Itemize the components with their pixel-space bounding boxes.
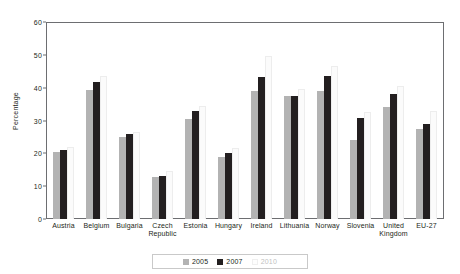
- bar-2010[interactable]: [298, 89, 305, 219]
- x-axis-tick-label: Slovenia: [344, 222, 377, 248]
- y-axis-tick-label: 30: [34, 117, 42, 124]
- legend-swatch-2005-icon: [183, 259, 189, 265]
- bar-group: [86, 22, 107, 219]
- bar-2007[interactable]: [324, 76, 331, 219]
- bar-2005[interactable]: [284, 96, 291, 219]
- x-axis-tick-label: EU-27: [410, 222, 443, 248]
- bar-2007[interactable]: [423, 124, 430, 219]
- bar-2005[interactable]: [185, 119, 192, 219]
- clipped-header-artifact: [0, 0, 460, 12]
- legend-item-2005[interactable]: 2005: [183, 258, 208, 265]
- bar-2010[interactable]: [166, 171, 173, 219]
- bar-2005[interactable]: [86, 90, 93, 219]
- bar-2010[interactable]: [67, 147, 74, 219]
- y-axis-tick-label: 0: [38, 216, 42, 223]
- bar-2010[interactable]: [430, 111, 437, 219]
- y-axis: Percentage 0102030405060: [0, 0, 46, 222]
- legend-item-2007[interactable]: 2007: [217, 258, 242, 265]
- chart-figure: Percentage 0102030405060 AustriaBelgiumB…: [0, 0, 460, 274]
- bar-group: [119, 22, 140, 219]
- x-axis-tick-label: Belgium: [80, 222, 113, 248]
- bar-2010[interactable]: [265, 56, 272, 220]
- bar-2007[interactable]: [357, 118, 364, 219]
- legend-swatch-2007-icon: [217, 259, 223, 265]
- bar-2010[interactable]: [331, 66, 338, 219]
- x-axis-tick-label-line2: Kingdom: [379, 230, 407, 237]
- bar-2007[interactable]: [60, 150, 67, 219]
- legend-swatch-2010-icon: [252, 259, 258, 265]
- y-axis-tick-label: 50: [34, 51, 42, 58]
- bar-group: [152, 22, 173, 219]
- bar-group: [416, 22, 437, 219]
- bar-2010[interactable]: [397, 86, 404, 219]
- y-axis-tick-label: 60: [34, 19, 42, 26]
- legend-label-2005: 2005: [192, 258, 208, 265]
- bar-group: [53, 22, 74, 219]
- bar-group: [284, 22, 305, 219]
- bar-2005[interactable]: [152, 177, 159, 219]
- bar-2010[interactable]: [364, 112, 371, 219]
- bar-2010[interactable]: [133, 132, 140, 219]
- bar-group: [350, 22, 371, 219]
- chart-legend: 2005 2007 2010: [152, 254, 308, 269]
- x-axis-tick-label: UnitedKingdom: [377, 222, 410, 248]
- y-axis-tick-label: 40: [34, 84, 42, 91]
- bar-2005[interactable]: [416, 129, 423, 219]
- bars-layer: [47, 22, 443, 219]
- x-axis-tick-label: Estonia: [179, 222, 212, 248]
- x-axis-tick-label: Bulgaria: [113, 222, 146, 248]
- bar-2007[interactable]: [390, 94, 397, 219]
- bar-2005[interactable]: [53, 152, 60, 219]
- y-axis-tick-label: 10: [34, 183, 42, 190]
- y-axis-title: Percentage: [12, 66, 19, 156]
- x-axis-labels: AustriaBelgiumBulgariaCzechRepublicEston…: [47, 222, 443, 248]
- bar-2005[interactable]: [350, 140, 357, 219]
- legend-item-2010[interactable]: 2010: [252, 258, 277, 265]
- x-axis-tick-label: CzechRepublic: [146, 222, 179, 248]
- x-axis-tick-label: Austria: [47, 222, 80, 248]
- x-axis-tick-label-line2: Republic: [148, 230, 176, 237]
- x-axis-tick-label: Lithuania: [278, 222, 311, 248]
- bar-group: [185, 22, 206, 219]
- x-axis-tick-label: Hungary: [212, 222, 245, 248]
- x-axis-tick-label: Ireland: [245, 222, 278, 248]
- bar-2007[interactable]: [126, 134, 133, 219]
- y-axis-tick-label: 20: [34, 150, 42, 157]
- bar-2005[interactable]: [218, 157, 225, 219]
- bar-group: [317, 22, 338, 219]
- bar-2005[interactable]: [383, 107, 390, 219]
- bar-2010[interactable]: [232, 148, 239, 219]
- bar-2007[interactable]: [291, 96, 298, 219]
- bar-group: [218, 22, 239, 219]
- bar-group: [383, 22, 404, 219]
- bar-2007[interactable]: [225, 153, 232, 219]
- bar-group: [251, 22, 272, 219]
- bar-2005[interactable]: [317, 91, 324, 219]
- bar-2010[interactable]: [100, 76, 107, 219]
- legend-label-2007: 2007: [226, 258, 242, 265]
- bar-2007[interactable]: [258, 77, 265, 219]
- x-axis-tick-label: Norway: [311, 222, 344, 248]
- bar-2007[interactable]: [192, 111, 199, 219]
- bar-2007[interactable]: [93, 82, 100, 219]
- bar-2005[interactable]: [251, 91, 258, 219]
- bar-2005[interactable]: [119, 137, 126, 219]
- bar-2010[interactable]: [199, 106, 206, 219]
- bar-2007[interactable]: [159, 176, 166, 219]
- legend-label-2010: 2010: [261, 258, 277, 265]
